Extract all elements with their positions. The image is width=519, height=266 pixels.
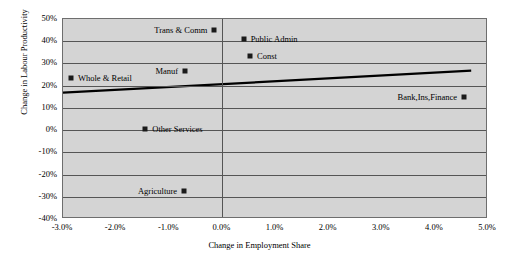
gridline-horizontal	[63, 130, 486, 131]
gridline-horizontal	[63, 63, 486, 64]
y-axis-tick-label: -40%	[39, 214, 57, 223]
y-axis-tick-label: 10%	[41, 103, 57, 112]
y-axis-tick-label: 30%	[41, 58, 57, 67]
y-axis-tick-label: 40%	[41, 36, 57, 45]
x-axis-tick-label: -3.0%	[52, 223, 73, 232]
y-axis-tick-label: -10%	[39, 147, 57, 156]
x-axis-tick-label: 3.0%	[372, 223, 390, 232]
x-axis-tick-label: -2.0%	[105, 223, 126, 232]
x-axis-tick-label: 1.0%	[266, 223, 284, 232]
data-point-label: Agriculture	[138, 187, 177, 196]
y-axis-tick-label: -30%	[39, 192, 57, 201]
plot-area: Trans & CommPublic AdminConstManufWhole …	[62, 18, 487, 218]
data-point-marker	[462, 94, 467, 99]
x-axis-tick-label: 4.0%	[425, 223, 443, 232]
axis-line-vertical-zero	[222, 19, 223, 217]
data-point-marker	[182, 189, 187, 194]
data-point-marker	[68, 75, 73, 80]
y-axis-tick-label: 0%	[46, 125, 57, 134]
x-axis-tick-label: 0.0%	[213, 223, 231, 232]
data-point-label: Whole & Retail	[78, 74, 132, 83]
data-point-label: Bank,Ins,Finance	[398, 93, 458, 102]
gridline-horizontal	[63, 152, 486, 153]
y-axis-tick-label: 50%	[41, 14, 57, 23]
data-point-marker	[241, 37, 246, 42]
data-point-label: Trans & Comm	[154, 26, 207, 35]
x-axis-tick-label: 2.0%	[319, 223, 337, 232]
data-point-marker	[143, 127, 148, 132]
data-point-label: Const	[257, 51, 277, 60]
gridline-horizontal	[63, 175, 486, 176]
gridline-horizontal	[63, 197, 486, 198]
data-point-marker	[212, 28, 217, 33]
scatter-chart: 50%40%30%20%10%0%-10%-20%-30%-40% Change…	[0, 0, 519, 266]
gridline-horizontal	[63, 108, 486, 109]
data-point-label: Manuf	[156, 66, 179, 75]
x-axis-title: Change in Employment Share	[0, 240, 519, 250]
trend-line	[63, 19, 486, 217]
y-axis-tick-label: -20%	[39, 169, 57, 178]
data-point-label: Other Services	[152, 125, 202, 134]
x-axis-tick-label: -1.0%	[158, 223, 179, 232]
data-point-marker	[248, 53, 253, 58]
y-axis-tick-label: 20%	[41, 80, 57, 89]
x-axis-tick-label: 5.0%	[478, 223, 496, 232]
y-axis-title: Change in Labour Productivity	[19, 0, 29, 142]
data-point-label: Public Admin	[251, 35, 298, 44]
gridline-horizontal	[63, 86, 486, 87]
data-point-marker	[183, 68, 188, 73]
